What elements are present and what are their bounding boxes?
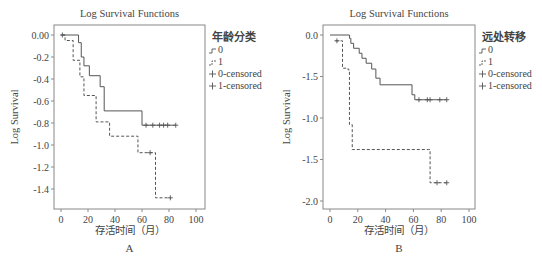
y-tick-label: -1.0	[302, 113, 318, 124]
legend-title: 远处转移	[482, 30, 526, 44]
y-tick-label: -0.4	[33, 74, 49, 85]
x-axis-label: 存活时间（月）	[364, 224, 434, 236]
y-tick-label: -1.2	[33, 162, 49, 173]
y-tick-label: -0.2	[33, 52, 49, 63]
x-tick-label: 100	[462, 214, 477, 225]
survival-step-line	[336, 41, 447, 183]
censored-marker	[334, 38, 339, 43]
plot-frame	[323, 25, 475, 209]
x-tick-label: 80	[436, 214, 446, 225]
x-tick-label: 0	[328, 214, 333, 225]
legend-entry: 1	[488, 56, 493, 67]
x-tick-label: 80	[164, 214, 174, 225]
plot-frame	[54, 25, 205, 209]
legend: 远处转移010-censored1-censored	[479, 30, 532, 91]
legend-censored-icon	[209, 83, 216, 90]
censored-marker	[168, 195, 173, 200]
censored-marker	[165, 123, 170, 128]
legend-entry: 0	[218, 44, 223, 55]
censored-marker	[150, 123, 155, 128]
legend-entry: 0-censored	[488, 68, 532, 79]
panel-label: B	[395, 242, 402, 254]
y-axis: 0.0-1.5-1.0-1.5-2.0	[302, 30, 323, 207]
y-tick-label: -2.0	[302, 196, 318, 207]
y-tick-label: -0.8	[33, 118, 49, 129]
y-tick-label: 0.0	[306, 30, 319, 41]
legend-censored-icon	[479, 71, 486, 78]
censored-marker	[428, 97, 433, 102]
legend: 年龄分类010-censored1-censored	[209, 30, 262, 91]
legend-censored-icon	[209, 71, 216, 78]
legend-entry: 1-censored	[488, 80, 532, 91]
censored-marker	[173, 123, 178, 128]
legend-title: 年龄分类	[212, 30, 257, 44]
legend-step-icon	[209, 61, 216, 65]
y-tick-label: -1.0	[33, 140, 49, 151]
legend-step-icon	[479, 49, 486, 53]
figure: Log Survival Functions0.00-0.2-0.4-0.6-0…	[0, 0, 542, 264]
censored-marker	[444, 97, 449, 102]
censored-marker	[435, 180, 440, 185]
censored-marker	[437, 97, 442, 102]
y-tick-label: -0.6	[33, 96, 49, 107]
x-axis: 020406080100	[328, 209, 477, 225]
legend-entry: 0-censored	[218, 68, 262, 79]
series-0	[60, 33, 178, 128]
legend-entry: 1-censored	[218, 80, 262, 91]
x-axis-label: 存活时间（月）	[95, 224, 165, 236]
x-tick-label: 20	[83, 214, 93, 225]
legend-entry: 0	[488, 44, 493, 55]
y-tick-label: -1.5	[302, 154, 318, 165]
chart-panel-b: Log Survival Functions0.0-1.5-1.0-1.5-2.…	[281, 8, 532, 254]
x-axis: 020406080100	[59, 209, 204, 225]
y-tick-label: -1.5	[302, 71, 318, 82]
censored-marker	[148, 150, 153, 155]
survival-step-line	[61, 35, 176, 125]
censored-marker	[444, 180, 449, 185]
y-axis: 0.00-0.2-0.4-0.6-0.8-1.0-1.2-1.4	[32, 30, 55, 195]
chart-panel-a: Log Survival Functions0.00-0.2-0.4-0.6-0…	[9, 8, 262, 254]
x-tick-label: 0	[59, 214, 64, 225]
survival-step-line	[330, 35, 447, 100]
y-axis-label: Log Survival	[281, 89, 292, 144]
survival-step-line	[62, 35, 170, 198]
series-1	[334, 38, 449, 185]
chart-title: Log Survival Functions	[349, 8, 448, 19]
censored-marker	[416, 97, 421, 102]
y-axis-label: Log Survival	[9, 89, 20, 144]
series-1	[62, 35, 173, 200]
y-tick-label: -1.4	[33, 184, 49, 195]
x-tick-label: 20	[353, 214, 363, 225]
legend-censored-icon	[479, 83, 486, 90]
legend-step-icon	[209, 49, 216, 53]
y-tick-label: 0.00	[32, 30, 50, 41]
panel-label: A	[126, 242, 134, 254]
legend-step-icon	[479, 61, 486, 65]
censored-marker	[144, 123, 149, 128]
legend-entry: 1	[218, 56, 223, 67]
chart-title: Log Survival Functions	[80, 8, 179, 19]
x-tick-label: 100	[189, 214, 204, 225]
